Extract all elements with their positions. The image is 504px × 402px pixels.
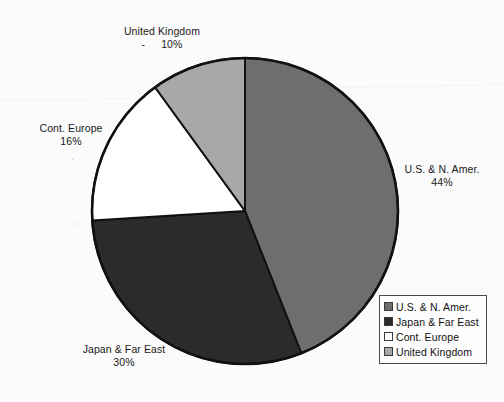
legend-item: U.S. & N. Amer. — [384, 299, 482, 314]
slice-label-united-kingdom: United Kingdom -10% — [96, 25, 228, 51]
legend-swatch-icon — [384, 347, 393, 356]
legend-item-label: Cont. Europe — [396, 331, 459, 343]
slice-label-pct: 10% — [161, 38, 182, 50]
legend-item-label: U.S. & N. Amer. — [396, 301, 471, 313]
pie-chart-figure: United Kingdom -10% Cont. Europe 16% U.S… — [0, 0, 504, 402]
legend-swatch-icon — [384, 317, 393, 326]
slice-label-name: United Kingdom — [124, 25, 200, 37]
slice-label-pct: 44% — [384, 176, 500, 189]
slice-label-name: U.S. & N. Amer. — [404, 163, 479, 175]
legend-item: United Kingdom — [384, 344, 482, 359]
slice-label-pct: 16% — [16, 135, 126, 148]
legend-item-label: Japan & Far East — [396, 316, 479, 328]
legend-swatch-icon — [384, 332, 393, 341]
legend-item: Cont. Europe — [384, 329, 482, 344]
slice-label-name: Japan & Far East — [83, 343, 166, 355]
chart-legend: U.S. & N. Amer.Japan & Far EastCont. Eur… — [379, 295, 487, 364]
slice-label-dash: - — [142, 38, 146, 51]
pie-slices — [92, 58, 398, 364]
legend-item: Japan & Far East — [384, 314, 482, 329]
slice-label-japan-far-east: Japan & Far East 30% — [56, 343, 192, 369]
slice-label-cont-europe: Cont. Europe 16% — [16, 122, 126, 148]
legend-swatch-icon — [384, 302, 393, 311]
slice-label-us-n-amer: U.S. & N. Amer. 44% — [384, 163, 500, 189]
legend-item-label: United Kingdom — [396, 346, 472, 358]
slice-label-pct: 30% — [56, 356, 192, 369]
slice-label-name: Cont. Europe — [39, 122, 102, 134]
